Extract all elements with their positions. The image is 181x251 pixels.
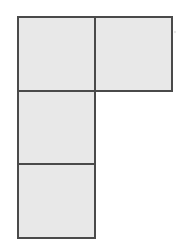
cell-r3c1 <box>18 164 95 238</box>
cell-r2c1 <box>18 91 95 165</box>
artifact-specks-group <box>174 31 176 33</box>
l-shape-diagram <box>0 0 181 251</box>
speck-right <box>174 31 176 33</box>
square-cells-group <box>18 17 172 238</box>
cell-r1c2 <box>95 17 172 91</box>
cell-r1c1 <box>18 17 95 91</box>
figure-canvas <box>0 0 181 251</box>
